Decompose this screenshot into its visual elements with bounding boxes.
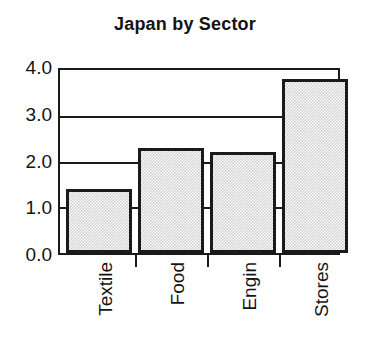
x-axis-label-food: Food <box>169 262 187 342</box>
x-axis-tick-mark <box>135 255 137 267</box>
y-axis-tick-labels: 0.0 1.0 2.0 3.0 4.0 <box>4 68 52 255</box>
bar-textile[interactable] <box>66 189 132 253</box>
y-axis-tick-label: 1.0 <box>6 197 52 219</box>
bar-food[interactable] <box>138 148 204 253</box>
chart-title: Japan by Sector <box>0 14 370 35</box>
x-axis-tick-mark <box>279 255 281 267</box>
x-axis-label-engin: Engin <box>241 262 259 342</box>
x-axis-label-textile: Textile <box>97 262 115 342</box>
bar-engin[interactable] <box>210 152 276 253</box>
bar-stores[interactable] <box>282 79 348 253</box>
y-axis-tick-label: 3.0 <box>6 104 52 126</box>
y-axis-tick-label: 0.0 <box>6 244 52 266</box>
y-axis-tick-label: 2.0 <box>6 151 52 173</box>
x-axis-tick-mark <box>207 255 209 267</box>
bar-chart: Japan by Sector 0.0 1.0 2.0 3.0 4.0 Text… <box>0 0 370 342</box>
y-axis-tick-label: 4.0 <box>6 57 52 79</box>
plot-area <box>58 68 340 255</box>
x-axis-label-stores: Stores <box>313 262 331 342</box>
